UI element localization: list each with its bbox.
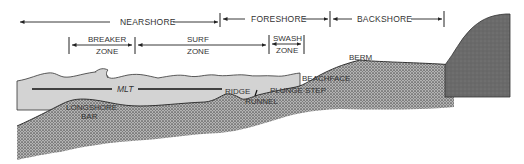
- label-backshore: BACKSHORE: [357, 14, 412, 24]
- label-beachface: BEACHFACE: [302, 74, 350, 83]
- label-longshore-line2: BAR: [81, 112, 98, 121]
- label-nearshore: NEARSHORE: [120, 17, 176, 27]
- label-breaker-line1: BREAKER: [88, 35, 126, 44]
- label-surf-line2: ZONE: [187, 47, 209, 56]
- label-foreshore: FORESHORE: [251, 14, 307, 24]
- label-berm: BERM: [349, 53, 372, 62]
- label-swash-line1: SWASH: [273, 34, 302, 43]
- label-ridge: RIDGE: [225, 87, 250, 96]
- label-plunge-step: PLUNGE STEP: [270, 86, 326, 95]
- label-mlt: MLT: [117, 84, 134, 94]
- bedrock-cliff: [445, 14, 510, 97]
- label-longshore-line1: LONGSHORE: [66, 103, 117, 112]
- label-breaker-line2: ZONE: [96, 47, 118, 56]
- label-runnel: RUNNEL: [245, 97, 278, 106]
- label-swash-line2: ZONE: [276, 46, 298, 55]
- beach-profile-diagram: MLT NEARSHORE FORESHORE BACKSHORE BREAKE…: [0, 0, 524, 164]
- label-surf-line1: SURF: [187, 35, 209, 44]
